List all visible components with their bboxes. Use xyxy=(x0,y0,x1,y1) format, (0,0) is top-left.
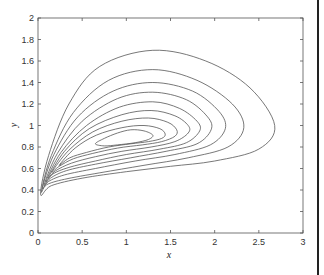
y-tick-label: 2 xyxy=(29,13,34,23)
y-tick-label: 1.2 xyxy=(21,99,34,109)
x-tick-label: 2 xyxy=(212,237,217,247)
y-tick-label: 0.8 xyxy=(21,142,34,152)
x-axis-ticks: 00.511.522.53 xyxy=(35,18,305,247)
y-tick-label: 1.8 xyxy=(21,35,34,45)
x-axis-label: x xyxy=(166,249,172,260)
contour-orbit-2 xyxy=(41,70,244,193)
y-axis-label: y xyxy=(8,122,19,128)
y-tick-label: 1.6 xyxy=(21,56,34,66)
contour-lines xyxy=(41,50,275,195)
y-tick-label: 0 xyxy=(29,228,34,238)
x-tick-label: 3 xyxy=(300,237,305,247)
x-tick-label: 0.5 xyxy=(76,237,89,247)
y-tick-label: 1.4 xyxy=(21,78,34,88)
contour-orbit-1 xyxy=(41,50,275,195)
contour-orbit-6 xyxy=(48,110,190,177)
y-tick-label: 0.6 xyxy=(21,164,34,174)
x-tick-label: 0 xyxy=(35,237,40,247)
y-tick-label: 0.2 xyxy=(21,207,34,217)
window-edge-divider xyxy=(317,0,319,275)
y-axis-ticks: 00.20.40.60.811.21.41.61.82 xyxy=(21,13,303,238)
contour-orbit-3 xyxy=(42,83,225,190)
x-tick-label: 1 xyxy=(124,237,129,247)
phase-portrait-chart: 00.511.522.53 00.20.40.60.811.21.41.61.8… xyxy=(0,0,324,275)
x-tick-label: 2.5 xyxy=(253,237,266,247)
y-tick-label: 1 xyxy=(29,121,34,131)
x-tick-label: 1.5 xyxy=(164,237,177,247)
y-tick-label: 0.4 xyxy=(21,185,34,195)
